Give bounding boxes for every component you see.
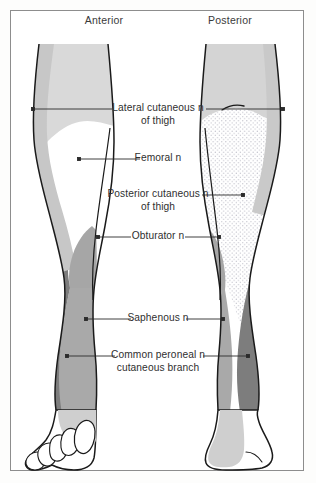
label-line-1: Obturator n — [108, 230, 208, 243]
label-saphenous: Saphenous n — [108, 312, 208, 325]
label-line-1: Femoral n — [108, 152, 208, 165]
label-line-1: Posterior cutaneous n — [96, 188, 220, 201]
label-line-1: Saphenous n — [108, 312, 208, 325]
label-posterior-cutaneous-thigh: Posterior cutaneous n of thigh — [96, 188, 220, 213]
label-line-1: Lateral cutaneous n — [108, 102, 208, 115]
leader-dot — [282, 108, 285, 111]
label-common-peroneal: Common peroneal n cutaneous branch — [92, 349, 224, 374]
leader-dot — [242, 194, 245, 197]
leader-dot — [218, 236, 221, 239]
label-femoral: Femoral n — [108, 152, 208, 165]
label-line-2: of thigh — [96, 201, 220, 214]
anterior-foot — [25, 410, 96, 470]
label-lateral-cutaneous-thigh: Lateral cutaneous n of thigh — [108, 102, 208, 127]
label-line-2: of thigh — [108, 115, 208, 128]
label-line-2: cutaneous branch — [92, 362, 224, 375]
posterior-foot — [205, 410, 272, 470]
leader-dot — [247, 355, 250, 358]
leader-dot — [222, 318, 225, 321]
label-line-1: Common peroneal n — [92, 349, 224, 362]
figure-root: Anterior Posterior — [0, 0, 316, 483]
label-obturator: Obturator n — [108, 230, 208, 243]
